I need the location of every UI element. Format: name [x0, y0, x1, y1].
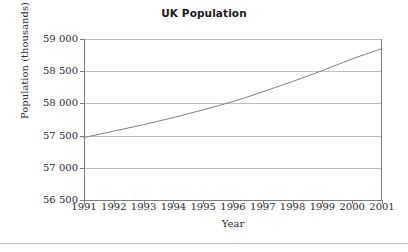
chart-figure: UK Population Population (thousands) Yea…: [0, 0, 408, 252]
x-tick-label: 2001: [362, 201, 402, 212]
x-tick-labels: 1991199219931994199519961997199819992000…: [0, 0, 408, 252]
bottom-divider: [0, 243, 408, 244]
